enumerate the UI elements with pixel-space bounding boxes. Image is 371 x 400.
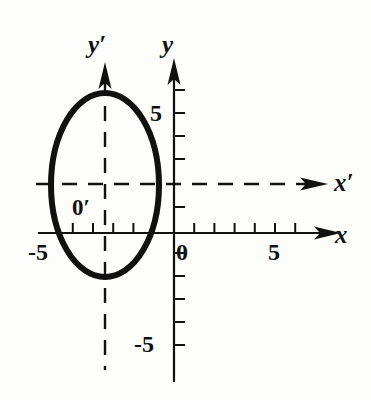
x-tick-label-5: 5 bbox=[268, 240, 280, 264]
x-axis-label: x bbox=[335, 222, 348, 247]
y-prime-axis-group bbox=[99, 62, 112, 370]
x-tick-label-neg5: -5 bbox=[28, 240, 48, 264]
y-axis-ticks bbox=[174, 90, 185, 345]
y-axis-label: y bbox=[162, 32, 173, 57]
x-axis-group bbox=[38, 223, 341, 240]
y-axis-group bbox=[168, 58, 186, 382]
diagram-svg bbox=[0, 0, 371, 400]
figure-canvas: y′ y x′ x 0′ 5 -5 5 -5 0 bbox=[0, 0, 371, 400]
translated-origin-label: 0′ bbox=[72, 196, 90, 219]
y-tick-label-neg5: -5 bbox=[134, 332, 154, 356]
x-prime-axis-label: x′ bbox=[334, 170, 354, 195]
x-prime-axis-group bbox=[36, 178, 328, 191]
origin-label: 0 bbox=[176, 240, 188, 264]
y-prime-axis-label: y′ bbox=[88, 32, 106, 57]
y-tick-label-5: 5 bbox=[150, 101, 162, 125]
